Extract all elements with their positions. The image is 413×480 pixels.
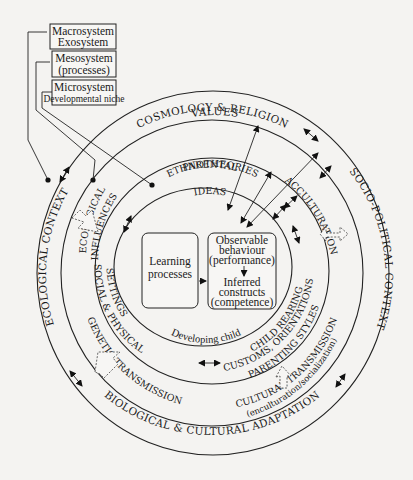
label-ecological-context: ECOLOGICAL CONTEXT (36, 186, 71, 328)
label-socio-political-context: SOCIO-POLITICAL CONTEXT (347, 165, 395, 331)
svg-text:(processes): (processes) (58, 64, 110, 77)
svg-text:processes: processes (148, 268, 193, 281)
behaviour-constructs-box: Observable behaviour (performance) Infer… (208, 233, 276, 309)
label-values: VALUES (190, 105, 240, 119)
svg-text:(competence): (competence) (211, 296, 274, 309)
svg-text:Developmental niche: Developmental niche (44, 94, 125, 104)
learning-processes-box: Learning processes (142, 233, 198, 308)
label-ethnotheories: ETHNOTHEORIES (165, 158, 261, 180)
label-acculturation: ACCULTURATION (282, 174, 339, 256)
legend-box-mesosystem: Mesosystem (processes) (52, 51, 116, 77)
legend-box-microsystem: Microsystem Developmental niche (44, 80, 125, 105)
influence-arrows (228, 126, 318, 227)
svg-text:(performance): (performance) (209, 254, 275, 267)
legend-box-macrosystem: Macrosystem Exosystem (50, 24, 116, 49)
svg-text:Microsystem: Microsystem (54, 81, 114, 94)
label-ideas: IDEAS (193, 185, 228, 198)
svg-text:Exosystem: Exosystem (58, 36, 109, 49)
ecocultural-framework-diagram: Macrosystem Exosystem Mesosystem (proces… (0, 0, 413, 480)
svg-text:Learning: Learning (149, 255, 191, 268)
